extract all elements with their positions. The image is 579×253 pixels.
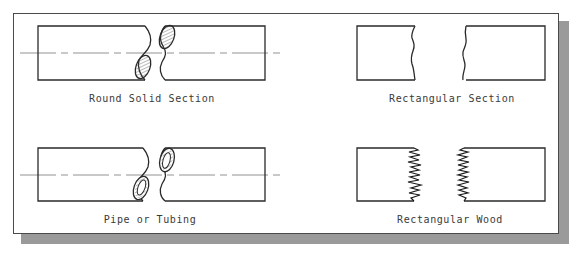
right-bar-outline bbox=[466, 26, 545, 80]
label-rectangular-wood: Rectangular Wood bbox=[397, 214, 503, 225]
left-bar-outline bbox=[357, 148, 414, 201]
left-splinter-break bbox=[408, 148, 421, 201]
label-round-solid-section: Round Solid Section bbox=[89, 93, 215, 104]
left-bar-outline bbox=[357, 26, 415, 80]
right-bar-outline bbox=[165, 148, 265, 201]
label-pipe-or-tubing: Pipe or Tubing bbox=[104, 214, 197, 225]
left-wavy-break bbox=[411, 26, 415, 80]
right-bar-outline bbox=[464, 148, 545, 201]
round-solid-symbol bbox=[20, 23, 283, 80]
left-bar-outline bbox=[38, 148, 143, 201]
label-rectangular-section: Rectangular Section bbox=[389, 93, 515, 104]
section-hatch-lower bbox=[132, 53, 153, 80]
rectangular-section-symbol bbox=[357, 26, 545, 80]
right-splinter-break bbox=[458, 148, 469, 201]
right-wavy-break bbox=[463, 26, 466, 80]
rectangular-wood-symbol bbox=[357, 148, 545, 201]
pipe-tubing-symbol bbox=[20, 147, 283, 202]
break-symbols-diagram: Round Solid Section Rectangular Section … bbox=[0, 0, 579, 253]
section-hatch-upper bbox=[156, 23, 177, 50]
